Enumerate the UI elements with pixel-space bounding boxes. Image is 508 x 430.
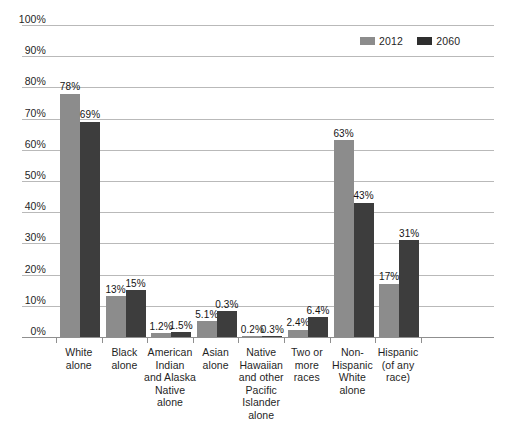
bar-value-label: 63% (324, 128, 364, 139)
bar-2060 (399, 240, 419, 337)
category-label-line: Black (111, 346, 137, 358)
y-axis-tick-label: 20% (2, 264, 46, 275)
bar-group: 63%43% (330, 25, 376, 337)
category-label-line: Asian (202, 346, 229, 358)
category-label-line: and other (239, 371, 284, 383)
category-label-line: Indian (156, 359, 185, 371)
bar-2060 (354, 203, 374, 337)
category-label-line: Hispanic (378, 346, 419, 358)
bar-2012 (60, 94, 80, 337)
x-axis-tick (330, 337, 331, 343)
category-label-line: White (65, 346, 92, 358)
legend-swatch-icon (360, 37, 375, 45)
category-label-line: alone (66, 359, 92, 371)
x-axis-tick (375, 337, 376, 343)
y-axis-tick-label: 50% (2, 170, 46, 181)
plot-area: 78%69%13%15%1.2%1.5%5.1%0.3%0.2%0.3%2.4%… (56, 25, 494, 337)
category-label-line: White (339, 371, 366, 383)
bar-2060 (262, 336, 282, 337)
bar-group: 0.2%0.3% (238, 25, 284, 337)
y-axis-tick-label: 70% (2, 108, 46, 119)
x-axis-tick (147, 337, 148, 343)
bar-2012 (197, 321, 217, 337)
bar-2012 (334, 140, 354, 337)
category-label-line: race) (386, 371, 410, 383)
legend-item: 2012 (360, 35, 403, 47)
bar-chart: 100%90%80%70%60%50%40%30%20%10%0% 78%69%… (0, 0, 508, 430)
bar-2060 (171, 332, 191, 337)
bar-group: 5.1%0.3% (193, 25, 239, 337)
category-label-line: races (294, 371, 320, 383)
category-label-line: Pacific (246, 384, 277, 396)
category-label-line: Islander (242, 396, 280, 408)
category-label-line: alone (157, 396, 183, 408)
category-label-line: alone (203, 359, 229, 371)
bar-2012 (288, 330, 308, 337)
bar-group: 2.4%6.4% (284, 25, 330, 337)
y-axis-tick-label: 90% (2, 45, 46, 56)
category-label-line: alone (111, 359, 137, 371)
legend-label: 2012 (379, 35, 403, 47)
category-label-line: Two or (291, 346, 323, 358)
y-axis-tick-label: 40% (2, 201, 46, 212)
bar-2012 (151, 333, 171, 337)
category-label-line: and Alaska (144, 371, 196, 383)
category-label-line: American (148, 346, 193, 358)
legend-swatch-icon (417, 37, 432, 45)
category-label-line: Hawaiian (239, 359, 283, 371)
category-label-line: alone (248, 409, 274, 421)
category-label-line: Non- (341, 346, 364, 358)
legend-item: 2060 (417, 35, 460, 47)
category-label-line: more (295, 359, 319, 371)
bar-2060 (308, 317, 328, 337)
x-axis-tick (238, 337, 239, 343)
legend-label: 2060 (436, 35, 460, 47)
bar-2012 (242, 336, 262, 337)
bar-group: 13%15% (102, 25, 148, 337)
category-label-line: Native (246, 346, 276, 358)
x-axis-tick (56, 337, 57, 343)
category-label-line: (of any (382, 359, 414, 371)
x-axis-tick (102, 337, 103, 343)
y-axis-tick-label: 100% (2, 14, 46, 25)
chart-legend: 20122060 (360, 35, 460, 47)
y-axis-tick-label: 30% (2, 232, 46, 243)
x-axis-tick (421, 337, 422, 343)
bar-2012 (106, 296, 126, 337)
category-label-line: Hispanic (332, 359, 373, 371)
y-axis-tick-label: 10% (2, 295, 46, 306)
axis-baseline (22, 337, 494, 338)
x-axis-tick (284, 337, 285, 343)
y-axis-tick-label: 60% (2, 139, 46, 150)
category-label-line: alone (339, 384, 365, 396)
bar-2012 (379, 284, 399, 337)
x-axis-tick (193, 337, 194, 343)
bar-2060 (80, 122, 100, 337)
y-axis-tick-label: 80% (2, 76, 46, 87)
bar-group: 17%31% (375, 25, 421, 337)
x-axis-category-label: Hispanic(of anyrace) (371, 346, 425, 384)
bar-value-label: 78% (50, 81, 90, 92)
bar-group: 1.2%1.5% (147, 25, 193, 337)
y-axis-tick-label: 0% (2, 326, 46, 337)
category-label-line: Native (155, 384, 185, 396)
bar-value-label: 31% (389, 228, 429, 239)
